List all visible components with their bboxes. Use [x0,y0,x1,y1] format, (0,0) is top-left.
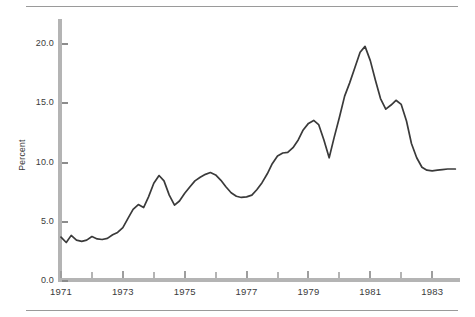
x-tick-label: 1983 [412,287,452,297]
x-minor-tick-mark [338,272,340,278]
y-tick-label: 15.0 [20,98,54,107]
x-minor-tick-mark [277,272,279,278]
y-tick-label: 10.0 [20,158,54,167]
y-tick-mark [62,102,68,104]
x-tick-mark [184,271,186,278]
x-tick-label: 1975 [165,287,205,297]
y-tick-label: 0.0 [20,276,54,285]
y-tick-label: 5.0 [20,217,54,226]
x-minor-tick-mark [215,272,217,278]
y-axis-spine [58,19,62,282]
x-tick-mark [60,271,62,278]
x-tick-mark [307,271,309,278]
x-axis-spine [58,278,460,282]
x-minor-tick-mark [91,272,93,278]
y-tick-mark [62,280,68,282]
y-tick-label: 20.0 [20,39,54,48]
x-tick-label: 1977 [227,287,267,297]
x-tick-label: 1971 [41,287,81,297]
y-tick-mark [62,43,68,45]
x-tick-mark [369,271,371,278]
bottom-divider-rule [26,310,458,311]
x-tick-label: 1973 [103,287,143,297]
x-tick-label: 1981 [350,287,390,297]
x-minor-tick-mark [153,272,155,278]
y-tick-mark [62,221,68,223]
x-tick-mark [122,271,124,278]
x-tick-label: 1979 [288,287,328,297]
plot-area [0,0,475,317]
chart-figure: Percent 0.05.010.015.020.0 1971197319751… [0,0,475,317]
x-minor-tick-mark [400,272,402,278]
y-tick-mark [62,162,68,164]
x-tick-mark [246,271,248,278]
x-tick-mark [431,271,433,278]
top-divider-rule [26,6,458,7]
series-line-percent [61,46,455,242]
